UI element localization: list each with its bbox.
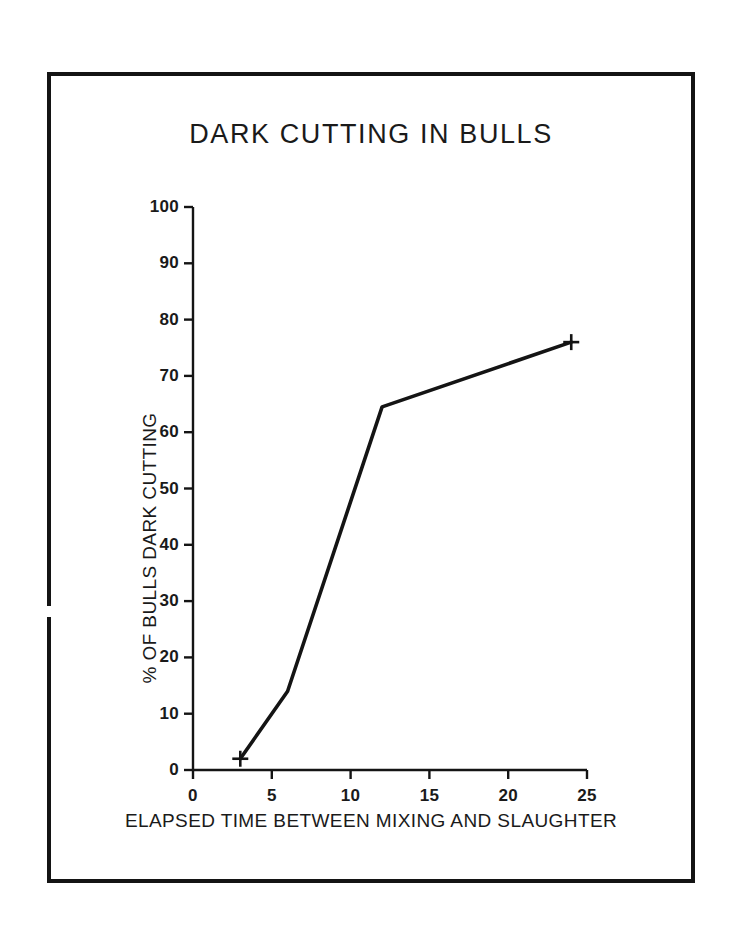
x-axis-tick-label: 15	[420, 786, 440, 806]
y-axis-tick-label: 80	[133, 310, 179, 330]
x-axis-tick-label: 0	[188, 786, 198, 806]
y-axis-tick-label: 10	[133, 704, 179, 724]
x-axis-tick-label: 10	[341, 786, 361, 806]
x-axis-tick-label: 25	[577, 786, 597, 806]
x-axis-tick-label: 5	[267, 786, 277, 806]
data-series-line	[240, 342, 571, 759]
x-axis-ticks	[193, 770, 587, 779]
y-axis-tick-label: 70	[133, 366, 179, 386]
y-axis-title: % OF BULLS DARK CUTTING	[139, 398, 161, 698]
y-axis-tick-label: 0	[133, 760, 179, 780]
figure-frame: DARK CUTTING IN BULLS 010203040506070809…	[47, 72, 695, 883]
y-axis-ticks	[184, 207, 193, 770]
y-axis-tick-label: 90	[133, 253, 179, 273]
x-axis-tick-label: 20	[498, 786, 518, 806]
y-axis-tick-label: 100	[133, 197, 179, 217]
x-axis-title: ELAPSED TIME BETWEEN MIXING AND SLAUGHTE…	[47, 810, 695, 832]
